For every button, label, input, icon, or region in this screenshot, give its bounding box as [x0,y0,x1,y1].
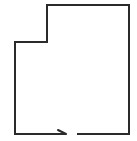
room-outline [15,5,129,134]
floor-plan-canvas [0,0,137,141]
floor-plan-diagram [0,0,137,141]
